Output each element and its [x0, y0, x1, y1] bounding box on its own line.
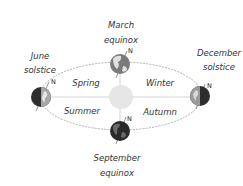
december-label-1: December: [197, 48, 242, 58]
earth-june-solstice: N: [31, 78, 56, 111]
north-label: N: [51, 78, 56, 86]
sun: [109, 85, 133, 109]
orbit-diagram: N N N N March equinox June solstice Dece…: [0, 0, 243, 186]
season-winter: Winter: [146, 78, 175, 88]
earth-march-equinox: N: [110, 47, 133, 78]
september-label-2: equinox: [100, 168, 135, 178]
north-label: N: [128, 47, 133, 55]
earth-september-equinox: N: [110, 115, 132, 144]
december-label-2: solstice: [203, 62, 235, 72]
earth-december-solstice: N: [190, 82, 212, 109]
june-label-1: June: [29, 51, 50, 61]
season-autumn: Autumn: [142, 107, 177, 117]
north-label: N: [127, 115, 132, 123]
march-label-2: equinox: [104, 35, 139, 45]
june-label-2: solstice: [24, 65, 56, 75]
september-label-1: September: [94, 153, 141, 163]
march-label-1: March: [108, 20, 134, 30]
season-summer: Summer: [64, 106, 101, 116]
season-spring: Spring: [72, 78, 100, 88]
north-label: N: [207, 82, 212, 90]
